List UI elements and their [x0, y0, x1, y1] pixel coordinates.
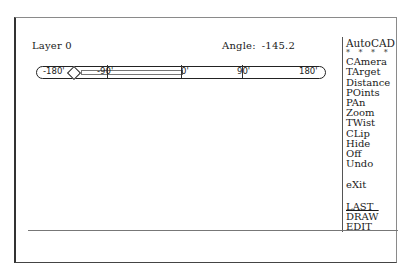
tick-label-90: 90': [237, 66, 250, 76]
menu-spacer: [346, 191, 395, 202]
slider-thumb[interactable]: [59, 67, 75, 77]
angle-slider[interactable]: -180' -90' 0' 90' 180': [36, 66, 326, 79]
tick-label-0: 0': [181, 66, 189, 76]
angle-status: Angle:-145.2: [222, 40, 295, 51]
layer-status: Layer 0: [32, 40, 72, 51]
command-line[interactable]: [30, 236, 390, 258]
screen-frame: [14, 17, 397, 263]
menu-item-edit[interactable]: EDIT: [346, 222, 395, 232]
tick-label-minus-90: -90': [97, 66, 113, 76]
menu-divider: [342, 37, 343, 232]
menu-item-exit[interactable]: eXit: [346, 180, 395, 190]
tick-label-180: 180': [299, 66, 318, 76]
layer-value: 0: [65, 40, 72, 51]
angle-value: -145.2: [262, 40, 295, 51]
screen-menu: AutoCAD * * * * CAmera TArget Distance P…: [346, 38, 395, 232]
menu-title[interactable]: AutoCAD: [346, 38, 395, 48]
menu-item-undo[interactable]: Undo: [346, 159, 395, 169]
layer-label: Layer: [32, 40, 62, 51]
diamond-icon: [67, 66, 81, 80]
command-line-divider: [28, 230, 398, 231]
angle-label: Angle:: [222, 40, 256, 51]
